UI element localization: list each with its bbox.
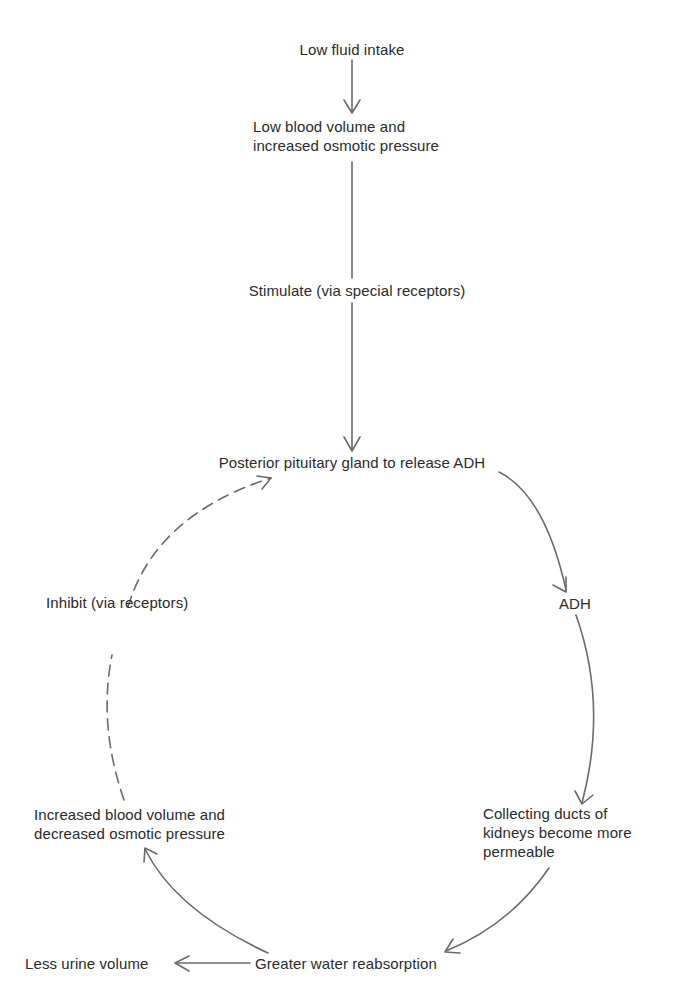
node-text: decreased osmotic pressure [34,824,225,843]
arrow-reabsorption-to-increased-blood-volume [144,848,268,953]
arrow-stimulate-to-pituitary [344,303,360,451]
edge-label-inhibit: Inhibit (via receptors) [46,593,188,612]
arrow-collecting-ducts-to-reabsorption [445,868,549,953]
node-text: Increased blood volume and [34,805,225,824]
node-text: Low fluid intake [252,40,452,59]
node-text: Posterior pituitary gland to release ADH [182,453,522,472]
node-less-urine-volume: Less urine volume [25,954,148,973]
node-text: Stimulate (via special receptors) [212,281,502,300]
arrow-pituitary-to-adh [499,472,566,592]
dashed-arrow-inhibit-to-pituitary [107,476,271,800]
node-text: Inhibit (via receptors) [46,593,188,612]
node-adh: ADH [545,594,605,613]
node-text: ADH [545,594,605,613]
node-text: Collecting ducts of [483,804,632,823]
node-low-blood-volume: Low blood volume and increased osmotic p… [253,117,439,155]
node-collecting-ducts: Collecting ducts of kidneys become more … [483,804,632,861]
node-text: increased osmotic pressure [253,136,439,155]
arrow-reabsorption-to-less-urine [175,956,250,971]
node-text: Greater water reabsorption [255,954,437,973]
node-text: Less urine volume [25,954,148,973]
node-low-fluid-intake: Low fluid intake [252,40,452,59]
node-posterior-pituitary: Posterior pituitary gland to release ADH [182,453,522,472]
node-increased-blood-volume: Increased blood volume and decreased osm… [34,805,225,843]
arrow-intake-to-blood-volume [344,60,360,113]
node-text: permeable [483,842,632,861]
arrow-adh-to-collecting-ducts [575,615,594,804]
node-text: kidneys become more [483,823,632,842]
edge-label-stimulate: Stimulate (via special receptors) [212,281,502,300]
adh-feedback-diagram: Low fluid intake Low blood volume and in… [0,0,691,1003]
node-text: Low blood volume and [253,117,439,136]
node-greater-water-reabsorption: Greater water reabsorption [255,954,437,973]
